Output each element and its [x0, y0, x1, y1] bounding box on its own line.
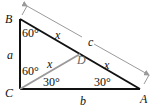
vertex-C-label: C [5, 86, 14, 100]
segment-DA-label: x [103, 58, 110, 72]
vertex-B-label: B [5, 12, 13, 26]
angle-DCA-label: 30° [43, 75, 60, 89]
dimension-c-label: c [88, 35, 94, 49]
segment-BD-label: x [54, 28, 61, 42]
dimension-arrow-c [22, 6, 149, 84]
angle-B-label: 60° [22, 26, 39, 40]
angle-A-label: 30° [94, 75, 111, 89]
side-b-label: b [80, 94, 86, 108]
vertex-A-label: A [139, 92, 148, 106]
side-a-label: a [7, 48, 13, 62]
point-D-label: D [76, 53, 86, 67]
angle-BCD-label: 60° [22, 64, 39, 78]
segment-CD-label: x [46, 57, 53, 71]
triangle-diagram: B C A D a b c x x x 60° 60° 30° 30° [0, 0, 154, 110]
